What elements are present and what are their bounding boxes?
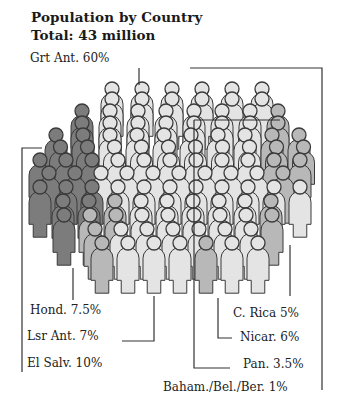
people-figures [29, 82, 315, 293]
label-lsr-ant: Lsr Ant. 7% [27, 329, 99, 343]
label-nicar: Nicar. 6% [240, 330, 299, 344]
label-grt-ant: Grt Ant. 60% [30, 51, 109, 65]
label-c-rica: C. Rica 5% [233, 306, 299, 320]
label-el-salv: El Salv. 10% [27, 356, 102, 370]
label-baham: Baham./Bel./Ber. 1% [163, 380, 288, 394]
label-pan: Pan. 3.5% [243, 357, 304, 371]
leader-nicar [218, 298, 232, 338]
label-hond: Hond. 7.5% [30, 303, 101, 317]
leader-lsr-ant [122, 296, 154, 341]
